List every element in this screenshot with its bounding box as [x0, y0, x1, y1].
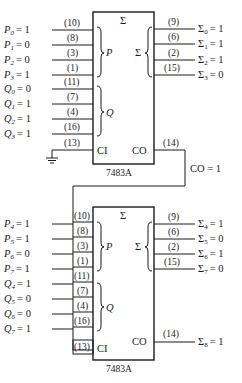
group-label-p: P	[105, 47, 113, 58]
lower-adder: Σ P4= 1 P5= 1 P6= 0 P7= 1 (10) (8) (3)	[3, 207, 223, 374]
pin-label: (15)	[164, 257, 180, 268]
pin-label: (1)	[77, 256, 88, 267]
chip-label: 7483A	[106, 364, 132, 374]
output-label-s4: Σ4= 1	[198, 218, 223, 231]
output-label-s1: Σ1= 1	[198, 38, 223, 51]
pin-label: (2)	[168, 242, 179, 253]
lower-outputs: (9) (6) (2) (15) Σ4= 1 Σ5= 0 Σ6= 1 Σ7= 0	[154, 212, 223, 276]
input-label-q0: Q0= 0	[4, 83, 31, 96]
output-label-s3: Σ3= 0	[198, 69, 223, 82]
co-label: CO	[132, 145, 147, 156]
pin-label: (11)	[64, 77, 79, 88]
lower-q-inputs: Q4= 1 Q5= 0 Q6= 0 Q7= 1 (11) (7) (4) (16…	[4, 271, 90, 336]
input-label-p0: P0= 1	[3, 24, 30, 37]
input-label-q6: Q6= 0	[4, 308, 31, 321]
input-label-q1: Q1= 1	[4, 98, 31, 111]
upper-ci-ground: (13)	[46, 138, 93, 163]
chip-label: 7483A	[106, 168, 132, 178]
pin-label: (9)	[168, 17, 179, 28]
upper-adder: Σ P0= 1 P1= 0 P2= 0 P3= 1 (10) (8) (3) (…	[3, 12, 223, 178]
pin-label: (7)	[67, 92, 78, 103]
input-label-q7: Q7= 1	[4, 323, 31, 336]
pin-label: (11)	[74, 271, 89, 282]
group-label-sum: Σ	[135, 241, 141, 252]
pin-label: (8)	[77, 226, 88, 237]
input-label-p1: P1= 0	[3, 39, 30, 52]
upper-q-inputs: Q0= 0 Q1= 1 Q2= 1 Q3= 1 (11) (7) (4) (16…	[4, 77, 93, 141]
upper-sum-header: Σ	[120, 15, 126, 26]
input-label-q3: Q3= 1	[4, 128, 31, 141]
pin-label: (10)	[64, 18, 80, 29]
input-label-p5: P5= 1	[3, 233, 30, 246]
pin-label: (4)	[67, 107, 78, 118]
input-label-p2: P2= 0	[3, 54, 30, 67]
upper-outputs: (9) (6) (2) (15) Σ0= 1 Σ1= 1 Σ2= 1 Σ3= 0	[154, 17, 223, 82]
pin-label: (8)	[67, 33, 78, 44]
pin-label: (9)	[168, 212, 179, 223]
carry-link-label: CO = 1	[190, 163, 221, 174]
upper-chip-body	[93, 12, 154, 164]
pin-label: (4)	[77, 301, 88, 312]
input-label-q5: Q5= 0	[4, 293, 31, 306]
pin-label: (6)	[168, 227, 179, 238]
output-label-s6: Σ6= 1	[198, 248, 223, 261]
output-label-s7: Σ7= 0	[198, 263, 223, 276]
pin-label: (2)	[168, 48, 179, 59]
lower-sum-header: Σ	[120, 210, 126, 221]
output-label-s5: Σ5= 0	[198, 233, 223, 246]
pin-label: (14)	[163, 329, 179, 340]
input-label-p6: P6= 0	[3, 248, 30, 261]
group-label-q: Q	[106, 107, 114, 118]
pin-label: (14)	[163, 138, 179, 149]
pin-label: (15)	[164, 63, 180, 74]
output-label-s0: Σ0= 1	[198, 23, 223, 36]
group-label-p: P	[105, 241, 113, 252]
group-label-sum: Σ	[135, 47, 141, 58]
upper-p-inputs: P0= 1 P1= 0 P2= 0 P3= 1 (10) (8) (3) (1)	[3, 18, 93, 82]
pin-label: (7)	[77, 286, 88, 297]
pin-label: (6)	[168, 32, 179, 43]
ci-label: CI	[97, 343, 108, 354]
adder-diagram: Σ P0= 1 P1= 0 P2= 0 P3= 1 (10) (8) (3) (…	[0, 0, 242, 383]
input-label-p7: P7= 1	[3, 263, 30, 276]
pin-label: (1)	[67, 63, 78, 74]
pin-label: (3)	[77, 241, 88, 252]
input-label-p4: P4= 1	[3, 218, 30, 231]
lower-p-inputs: P4= 1 P5= 1 P6= 0 P7= 1 (10) (8) (3) (1)	[3, 211, 90, 276]
pin-label: (13)	[74, 342, 90, 353]
co-label: CO	[132, 336, 147, 347]
group-label-q: Q	[106, 302, 114, 313]
pin-label: (16)	[74, 316, 90, 327]
pin-label: (13)	[64, 138, 80, 149]
output-label-s8: Σ8= 1	[198, 336, 223, 349]
pin-label: (16)	[64, 122, 80, 133]
pin-label: (10)	[74, 211, 90, 222]
ci-label: CI	[97, 145, 108, 156]
input-label-p3: P3= 1	[3, 69, 30, 82]
input-label-q2: Q2= 1	[4, 113, 31, 126]
pin-label: (3)	[67, 48, 78, 59]
input-label-q4: Q4= 1	[4, 278, 31, 291]
output-label-s2: Σ2= 1	[198, 54, 223, 67]
